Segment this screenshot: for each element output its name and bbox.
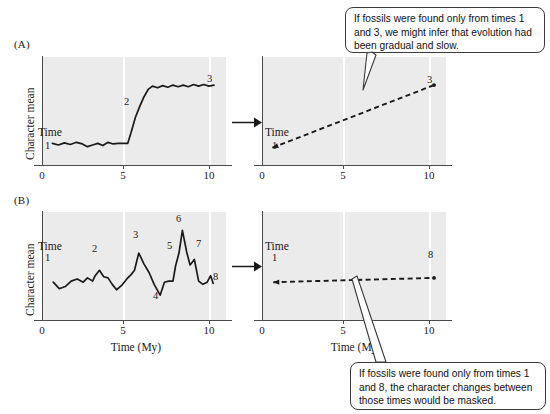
x-axis-label-b-right: Time (My) [313,341,399,353]
gridline-10-b-right [429,212,431,320]
gridline-5-a-left [123,57,125,165]
x-ticklabel-0-a-left: 0 [32,169,52,181]
y-axis-b-right [262,211,263,321]
gridline-5-b-left [123,212,125,320]
callout-panel-a: If fossils were found only from times 1 … [345,7,545,53]
x-ticklabel-5-b-left: 5 [113,324,133,336]
x-axis-b-right [254,320,452,321]
y-axis-label-a: Character mean [24,88,36,160]
y-axis-a-left [42,56,43,166]
chart-b-right-plot-area [263,212,446,320]
y-axis-b-left [42,211,43,321]
x-ticklabel-10-a-right: 10 [419,169,439,181]
x-ticklabel-10-b-right: 10 [419,324,439,336]
time-label-b-left: Time [38,240,62,252]
x-ticklabel-10-a-left: 10 [199,169,219,181]
x-axis-a-left [34,165,232,166]
y-axis-label-b: Character mean [24,244,36,316]
point-label-3-a-right: 3 [427,74,432,85]
x-axis-b-left [34,320,232,321]
point-label-2-b-left: 2 [92,243,97,254]
point-label-8-b-left: 8 [213,271,218,282]
transition-arrow-a-icon [232,118,262,128]
point-label-2-a-left: 2 [124,96,129,107]
transition-arrow-b-icon [232,262,262,272]
callout-panel-b: If fossils were found only from times 1 … [350,362,546,410]
time-label-a-right: Time [265,126,289,138]
chart-a-left-plot-area [43,57,226,165]
gridline-5-b-right [343,212,345,320]
x-ticklabel-0-a-right: 0 [252,169,272,181]
point-label-7-b-left: 7 [196,238,201,249]
x-ticklabel-5-a-right: 5 [333,169,353,181]
x-ticklabel-0-b-right: 0 [252,324,272,336]
panel-letter-b: (B) [14,194,29,206]
point-label-6-b-left: 6 [176,213,181,224]
point-label-5-b-left: 5 [167,240,172,251]
y-axis-a-right [262,56,263,166]
point-label-3-b-left: 3 [133,229,138,240]
x-ticklabel-5-a-left: 5 [113,169,133,181]
x-ticklabel-10-b-left: 10 [199,324,219,336]
x-axis-a-right [254,165,452,166]
point-label-1-a-right: 1 [272,140,277,151]
point-label-1-b-left: 1 [45,252,50,263]
point-label-4-b-left: 4 [153,290,158,301]
point-label-1-b-right: 1 [272,252,277,263]
chart-a-right-plot-area [263,57,446,165]
x-axis-label-b-left: Time (My) [93,341,179,353]
point-label-8-b-right: 8 [428,249,433,260]
time-label-a-left: Time [38,126,62,138]
point-label-1-a-left: 1 [45,140,50,151]
x-ticklabel-0-b-left: 0 [32,324,52,336]
panel-letter-a: (A) [14,38,30,50]
gridline-10-b-left [209,212,211,320]
point-label-3-a-left: 3 [207,73,212,84]
time-label-b-right: Time [265,240,289,252]
gridline-5-a-right [343,57,345,165]
x-ticklabel-5-b-right: 5 [333,324,353,336]
